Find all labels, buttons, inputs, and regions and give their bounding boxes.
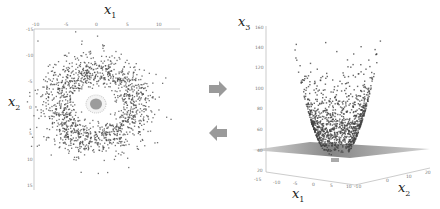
right-ztick: 140 xyxy=(255,45,264,50)
right-ztick: 60 xyxy=(257,127,263,132)
right-ztick: 160 xyxy=(255,25,264,30)
right-xtick: -15 xyxy=(254,177,261,182)
left-scatter-plot: x1 x2 -10 -5 0 5 10 -15 -10 -5 0 5 10 15 xyxy=(0,0,190,209)
left-y-axis-label: x2 xyxy=(8,94,20,112)
right-ztick: 20 xyxy=(257,168,263,173)
right-xtick: 5 xyxy=(330,183,333,188)
left-ytick: -5 xyxy=(28,79,33,84)
right-ytick: -10 xyxy=(354,184,361,189)
right-ytick: 20 xyxy=(425,170,431,175)
left-xtick: 0 xyxy=(95,22,98,27)
right-ztick: 40 xyxy=(257,148,263,153)
right-ztick: 100 xyxy=(255,86,264,91)
right-z-axis-label: x3 xyxy=(238,14,250,32)
right-ytick: 0 xyxy=(386,178,389,183)
right-y-axis-label: x2 xyxy=(398,180,410,198)
left-arrow-icon xyxy=(209,125,227,141)
left-ytick: 15 xyxy=(27,183,33,188)
left-ytick: 0 xyxy=(29,105,32,110)
right-xtick: 0 xyxy=(312,182,315,187)
left-ytick: 10 xyxy=(27,157,33,162)
right-arrow-icon xyxy=(209,81,227,97)
left-ytick: -15 xyxy=(26,27,33,32)
right-xtick: -5 xyxy=(293,181,298,186)
left-ytick: -10 xyxy=(26,53,33,58)
right-ztick: 80 xyxy=(257,106,263,111)
right-ytick: 10 xyxy=(406,174,412,179)
transform-arrows xyxy=(195,70,245,150)
left-xtick: 5 xyxy=(126,22,129,27)
right-xtick: 10 xyxy=(346,184,352,189)
left-x-axis-label: x1 xyxy=(104,2,116,20)
right-x-axis-label: x1 xyxy=(292,186,304,204)
right-xtick: -10 xyxy=(273,180,280,185)
right-3d-scatter-plot: x3 x1 x2 160 140 120 100 80 60 40 20 -15… xyxy=(240,0,440,209)
left-ytick: 5 xyxy=(29,131,32,136)
left-xtick: -5 xyxy=(64,22,69,27)
right-ztick: 120 xyxy=(255,65,264,70)
left-xtick: 10 xyxy=(156,22,162,27)
